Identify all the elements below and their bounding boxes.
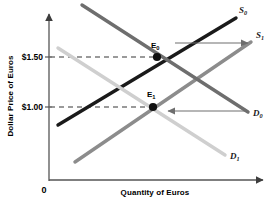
equilibrium-point-e1 [149,103,157,111]
equilibrium-label-e1: E1 [147,90,156,100]
x-axis-title: Quantity of Euros [121,188,190,197]
curve-label-s0: S0 [239,5,247,16]
chart-canvas: S0 S1 D0 D1 E0 E1 $1.50 $1.00 [0,0,275,199]
curve-label-d0: D0 [252,108,263,119]
tick-labels-group: $1.50 $1.00 [22,52,44,112]
equilibrium-points-group [149,53,161,111]
curve-labels-group: S0 S1 D0 D1 [229,5,264,162]
exchange-rate-supply-demand-chart: S0 S1 D0 D1 E0 E1 $1.50 $1.00 [0,0,275,199]
origin-label: 0 [41,185,46,195]
curve-d1 [58,48,225,155]
equilibrium-label-e0: E0 [151,41,160,51]
y-axis-title: Dollar Price of Euros [6,55,15,137]
curve-label-d1: D1 [229,151,240,162]
y-tick-label: $1.50 [22,52,44,62]
curves-group [58,5,251,162]
y-tick-label: $1.00 [22,102,44,112]
equilibrium-point-e0 [153,53,161,61]
curve-label-s1: S1 [256,30,264,41]
